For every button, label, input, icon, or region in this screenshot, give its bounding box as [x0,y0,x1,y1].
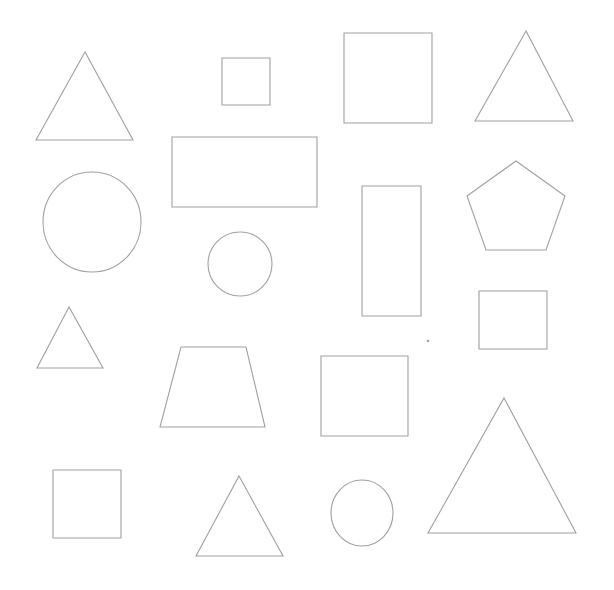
shape-triangle-top-right[interactable] [475,31,573,121]
shape-circle-small-bottom[interactable] [331,480,393,546]
shape-triangle-small-left[interactable] [37,307,103,368]
shape-square-right-middle[interactable] [479,291,547,349]
shape-square-bottom-left[interactable] [53,470,121,538]
shapes-canvas [0,0,614,590]
shape-rectangle-wide[interactable] [172,137,317,207]
shape-square-center-bottom[interactable] [321,356,408,436]
shape-trapezoid-center[interactable] [160,347,265,427]
shape-square-large-top-center[interactable] [344,33,432,123]
shapes-svg [0,0,614,590]
shape-rectangle-tall[interactable] [362,186,421,316]
shape-triangle-bottom-center[interactable] [196,476,283,556]
shape-triangle-large-bottom-right[interactable] [428,398,576,533]
shape-triangle-large-top-left[interactable] [36,52,133,140]
shape-dot-speck [427,340,429,342]
shape-square-small-top[interactable] [222,58,270,105]
shape-circle-large-left[interactable] [43,172,141,272]
shape-pentagon-right[interactable] [467,161,565,250]
shape-circle-medium-center[interactable] [208,232,272,296]
